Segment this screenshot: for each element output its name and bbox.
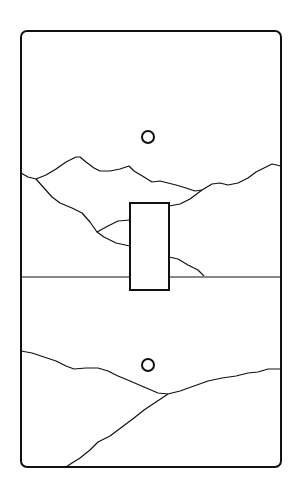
top-screw: [142, 131, 154, 143]
switch-plate-illustration: [0, 0, 299, 488]
switch-toggle[interactable]: [130, 203, 169, 290]
bottom-screw: [142, 359, 154, 371]
